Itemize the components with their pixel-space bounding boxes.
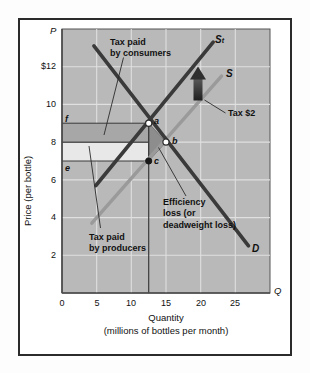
figure-root: P Q $12 10 8 6 4 2 0 5 10 15 20 25 Price… xyxy=(0,0,310,373)
point-f-label: f xyxy=(65,114,68,124)
y-axis-title: Price (per bottle) xyxy=(22,156,33,226)
supply-tax-curve-label: St xyxy=(215,34,224,45)
demand-curve-label: D xyxy=(252,243,259,254)
supply-tax-curve-label-subscript: t xyxy=(222,37,224,44)
x-axis-title: Quantity xyxy=(62,312,270,323)
supply-curve-label: S xyxy=(226,68,233,79)
y-tick-2: 2 xyxy=(28,250,56,260)
x-tick-0: 0 xyxy=(53,298,71,308)
point-c-marker xyxy=(146,158,152,164)
point-c-label: c xyxy=(154,156,159,166)
annotation-tax-consumers-line1: Tax paid xyxy=(110,37,171,48)
y-axis-symbol: P xyxy=(50,25,56,36)
x-tick-25: 25 xyxy=(226,298,244,308)
annotation-tax-consumers-line2: by consumers xyxy=(110,48,171,59)
x-tick-15: 15 xyxy=(157,298,175,308)
annotation-tax-producers-line1: Tax paid xyxy=(89,232,146,243)
x-tick-5: 5 xyxy=(88,298,106,308)
point-a-label: a xyxy=(154,116,159,126)
y-tick-12: $12 xyxy=(28,61,56,71)
annotation-tax-paid-by-consumers: Tax paid by consumers xyxy=(110,37,171,60)
point-e-label: e xyxy=(65,163,70,173)
point-a-marker xyxy=(146,120,152,126)
annotation-efficiency-line2: loss (or xyxy=(163,208,236,219)
x-axis-subtitle: (millions of bottles per month) xyxy=(40,325,292,336)
annotation-efficiency-line1: Efficiency xyxy=(163,197,236,208)
supply-tax-curve-label-text: S xyxy=(215,34,222,45)
annotation-efficiency-line3: deadweight loss) xyxy=(163,220,236,231)
x-tick-20: 20 xyxy=(192,298,210,308)
y-tick-8: 8 xyxy=(28,137,56,147)
x-tick-10: 10 xyxy=(122,298,140,308)
annotation-tax-paid-by-producers: Tax paid by producers xyxy=(89,232,146,255)
point-b-marker xyxy=(163,139,169,145)
annotation-tax-amount: Tax $2 xyxy=(228,108,255,119)
x-axis-symbol: Q xyxy=(274,285,281,296)
point-b-label: b xyxy=(172,136,178,146)
region-tax-paid-by-producers xyxy=(62,142,149,161)
y-tick-10: 10 xyxy=(28,99,56,109)
annotation-efficiency-loss: Efficiency loss (or deadweight loss) xyxy=(163,197,236,231)
annotation-tax-producers-line2: by producers xyxy=(89,243,146,254)
